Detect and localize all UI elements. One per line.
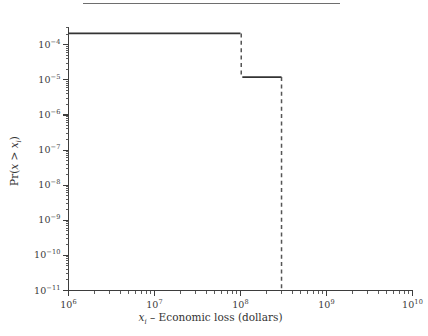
y-tick-label: 10−7 bbox=[38, 144, 60, 155]
y-tick-label: 10−5 bbox=[38, 74, 60, 85]
x-tick-label: 107 bbox=[130, 299, 180, 310]
x-tick-label: 106 bbox=[44, 299, 94, 310]
y-tick-label: 10−10 bbox=[34, 249, 61, 260]
y-tick-label: 10−11 bbox=[34, 285, 61, 296]
y-tick-label: 10−9 bbox=[38, 214, 60, 225]
y-tick-label: 10−6 bbox=[38, 109, 60, 120]
y-axis-title: Pr(x > xi) bbox=[8, 111, 20, 211]
x-tick-label: 109 bbox=[302, 299, 352, 310]
x-tick-label: 1010 bbox=[388, 299, 428, 310]
y-tick-label: 10−8 bbox=[38, 179, 60, 190]
y-tick-label: 10−4 bbox=[38, 39, 60, 50]
x-axis-title: xi – Economic loss (dollars) bbox=[0, 311, 421, 323]
x-axis-ticks bbox=[69, 291, 413, 297]
y-axis-ticks bbox=[63, 28, 69, 291]
data-series-layer bbox=[69, 33, 282, 290]
x-tick-label: 108 bbox=[216, 299, 266, 310]
